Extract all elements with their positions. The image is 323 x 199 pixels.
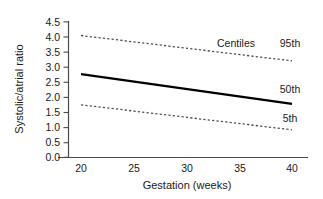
x-tick-label: 20 [75, 162, 87, 174]
series-label-5th: 5th [283, 112, 298, 124]
legend-title: Centiles [217, 37, 255, 49]
x-tick-labels: 20 25 30 35 40 [75, 162, 298, 174]
y-tick-label: 1.0 [45, 121, 60, 133]
series-line-50th [81, 74, 292, 104]
series-line-5th [81, 105, 292, 130]
y-axis-title: Systolic/atrial ratio [13, 44, 25, 133]
y-tick-label: 1.5 [45, 106, 60, 118]
y-tick-labels: 4.5 4.0 3.5 3.0 2.5 2.0 1.5 1.0 0.5 0.0 [45, 16, 60, 163]
x-tick-label: 35 [234, 162, 246, 174]
line-chart: 4.5 4.0 3.5 3.0 2.5 2.0 1.5 1.0 0.5 0.0 … [0, 0, 323, 199]
x-tick-label: 40 [286, 162, 298, 174]
y-tick-label: 2.0 [45, 91, 60, 103]
x-tick-label: 25 [128, 162, 140, 174]
x-axis-title: Gestation (weeks) [143, 179, 232, 191]
y-tick-label: 3.5 [45, 46, 60, 58]
chart-container: 4.5 4.0 3.5 3.0 2.5 2.0 1.5 1.0 0.5 0.0 … [0, 0, 323, 199]
y-tick-label: 4.0 [45, 31, 60, 43]
series-label-95th: 95th [280, 37, 301, 49]
y-tick-label: 3.0 [45, 61, 60, 73]
series-line-95th [81, 36, 292, 61]
x-tick-label: 30 [181, 162, 193, 174]
series-label-50th: 50th [280, 83, 301, 95]
y-tick-label: 2.5 [45, 76, 60, 88]
y-tick-label: 0.5 [45, 136, 60, 148]
y-tick-label: 4.5 [45, 16, 60, 28]
y-tick-label: 0.0 [45, 151, 60, 163]
y-tick-marks [64, 22, 69, 157]
